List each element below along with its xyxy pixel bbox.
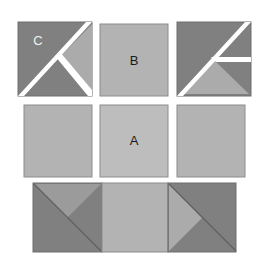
tile-top-left-label: C	[33, 33, 42, 48]
tile-bottom-left	[33, 183, 102, 252]
tile-top-right-white-diagonal-secondary	[211, 57, 251, 62]
tile-top-center-label: B	[130, 53, 139, 68]
tile-top-right	[177, 22, 251, 96]
tile-bottom-center	[102, 183, 168, 252]
tile-middle-right	[177, 105, 245, 177]
pattern-canvas: C B A	[0, 0, 267, 268]
tile-middle-center-label: A	[130, 133, 139, 148]
tile-middle-left	[24, 105, 92, 177]
tile-middle-center: A	[100, 105, 168, 177]
tile-middle-right-base	[177, 105, 245, 177]
tile-top-left: C	[18, 22, 92, 96]
tangram-pattern-figure: C B A	[0, 0, 267, 268]
tile-top-center: B	[100, 24, 168, 96]
tile-bottom-center-base	[102, 183, 168, 252]
tile-middle-left-base	[24, 105, 92, 177]
tile-bottom-right	[168, 183, 236, 252]
